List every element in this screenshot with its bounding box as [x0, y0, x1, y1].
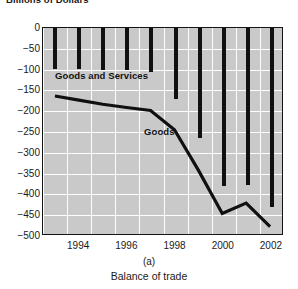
- y-tick-label: −500: [2, 230, 40, 241]
- x-tick-label: 2002: [260, 240, 282, 251]
- chart-axis-title: Billions of Dollars: [6, 0, 89, 5]
- y-tick-label: −100: [2, 63, 40, 74]
- y-tick-label: 0: [2, 22, 40, 33]
- y-axis-tick-labels: 0 −50 −100 −150 −200 −250 −300 −350 −400…: [0, 27, 40, 235]
- y-tick-label: −400: [2, 188, 40, 199]
- x-tick-label: 2000: [212, 240, 234, 251]
- x-tick-label: 1998: [163, 240, 185, 251]
- annotation-goods-and-services: Goods and Services: [55, 70, 148, 81]
- y-tick-label: −200: [2, 105, 40, 116]
- goods-line-path: [55, 96, 270, 227]
- x-axis-tick-labels: 1994 1996 1998 2000 2002: [42, 240, 283, 254]
- panel-label: (a): [0, 256, 298, 267]
- y-tick-label: −300: [2, 146, 40, 157]
- y-tick-label: −50: [2, 42, 40, 53]
- annotation-goods: Goods: [144, 126, 175, 137]
- y-tick-label: −450: [2, 209, 40, 220]
- plot-area: Goods and Services Goods: [42, 27, 283, 235]
- figure-subtitle: Balance of trade: [0, 270, 298, 282]
- x-tick-label: 1994: [67, 240, 89, 251]
- x-tick-label: 1996: [115, 240, 137, 251]
- y-tick-label: −350: [2, 167, 40, 178]
- plot-inner: Goods and Services Goods: [43, 28, 282, 234]
- y-tick-label: −150: [2, 84, 40, 95]
- y-tick-label: −250: [2, 126, 40, 137]
- chart-figure: Billions of Dollars 0 −50 −100 −150 −200…: [0, 0, 298, 289]
